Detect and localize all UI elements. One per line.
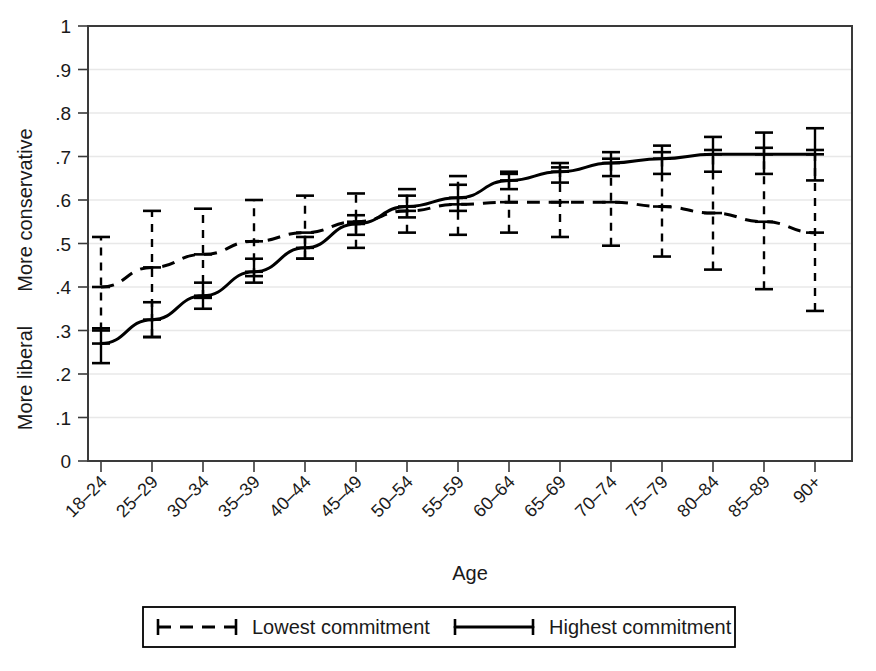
error-bar-18–24 bbox=[92, 237, 110, 331]
y-axis-label-conservative: More conservative bbox=[14, 128, 36, 291]
x-axis-label-18–24: 18–24 bbox=[61, 472, 111, 522]
y-tick-label-.5: .5 bbox=[55, 234, 71, 255]
y-tick-label-0: 0 bbox=[60, 451, 71, 472]
error-bar-18–24 bbox=[92, 328, 110, 363]
x-axis-label-65–69: 65–69 bbox=[520, 472, 570, 522]
x-axis-label-80–84: 80–84 bbox=[673, 472, 723, 522]
x-axis-label-40–44: 40–44 bbox=[265, 472, 315, 522]
data-series-group bbox=[92, 128, 824, 363]
x-axis-label-45–49: 45–49 bbox=[316, 472, 366, 522]
x-axis-label-90+: 90+ bbox=[789, 472, 825, 508]
y-tick-label-.4: .4 bbox=[55, 277, 71, 298]
x-axis-label-30–34: 30–34 bbox=[163, 472, 213, 522]
figure-container: 0.1.2.3.4.5.6.7.8.91 18–2425–2930–3435–3… bbox=[0, 0, 876, 671]
x-axis-label-70–74: 70–74 bbox=[571, 472, 621, 522]
y-tick-label-.6: .6 bbox=[55, 190, 71, 211]
y-tick-label-.8: .8 bbox=[55, 103, 71, 124]
legend-label: Lowest commitment bbox=[252, 616, 430, 638]
y-tick-label-.1: .1 bbox=[55, 408, 71, 429]
x-axis-label-75–79: 75–79 bbox=[622, 472, 672, 522]
y-tick-label-.9: .9 bbox=[55, 60, 71, 81]
y-tick-label-.3: .3 bbox=[55, 321, 71, 342]
x-axis-label-60–64: 60–64 bbox=[469, 472, 519, 522]
x-axis-label-25–29: 25–29 bbox=[112, 472, 162, 522]
age-commitment-line-chart: 0.1.2.3.4.5.6.7.8.91 18–2425–2930–3435–3… bbox=[0, 0, 876, 671]
x-axis-label-50–54: 50–54 bbox=[367, 472, 417, 522]
x-axis-category-labels: 18–2425–2930–3435–3940–4445–4950–5455–59… bbox=[61, 472, 825, 522]
legend-label: Highest commitment bbox=[549, 616, 732, 638]
x-axis-label-55–59: 55–59 bbox=[418, 472, 468, 522]
y-axis-label-liberal: More liberal bbox=[14, 326, 36, 430]
chart-legend[interactable]: Lowest commitmentHighest commitment bbox=[143, 607, 735, 647]
gridlines bbox=[88, 26, 852, 461]
y-tick-label-.7: .7 bbox=[55, 147, 71, 168]
y-tick-label-.2: .2 bbox=[55, 364, 71, 385]
y-tick-label-1: 1 bbox=[60, 16, 71, 37]
x-axis-ticks bbox=[101, 461, 815, 472]
x-axis-label-35–39: 35–39 bbox=[214, 472, 264, 522]
x-axis-label-85–89: 85–89 bbox=[724, 472, 774, 522]
y-axis-ticks: 0.1.2.3.4.5.6.7.8.91 bbox=[55, 16, 88, 472]
x-axis-title: Age bbox=[452, 562, 488, 584]
